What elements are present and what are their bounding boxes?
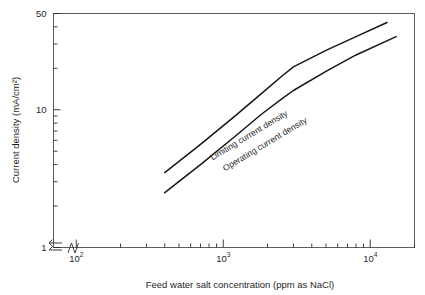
chart-svg: 11050 102103104 Limiting current density… bbox=[0, 0, 425, 295]
y-tick-label: 1 bbox=[41, 242, 46, 253]
curve-limiting-current-density bbox=[165, 23, 387, 173]
chart-figure: 11050 102103104 Limiting current density… bbox=[0, 0, 425, 295]
y-axis-ticks bbox=[54, 14, 61, 248]
x-axis-title: Feed water salt concentration (ppm as Na… bbox=[146, 279, 335, 290]
y-axis-title: Current density (mA/cm²) bbox=[10, 77, 21, 183]
x-tick-label: 103 bbox=[216, 251, 231, 263]
y-tick-label: 50 bbox=[36, 8, 47, 19]
x-axis-ticks bbox=[76, 240, 414, 248]
y-axis-break-icon bbox=[49, 240, 53, 251]
data-curves bbox=[165, 23, 396, 193]
plot-frame bbox=[54, 14, 415, 248]
x-axis-tick-labels: 102103104 bbox=[69, 251, 378, 263]
x-tick-label: 104 bbox=[363, 251, 378, 263]
y-tick-label: 10 bbox=[36, 104, 47, 115]
x-tick-label: 102 bbox=[69, 251, 84, 263]
x-axis-break-icon bbox=[68, 243, 79, 253]
y-axis-tick-labels: 11050 bbox=[36, 8, 47, 253]
